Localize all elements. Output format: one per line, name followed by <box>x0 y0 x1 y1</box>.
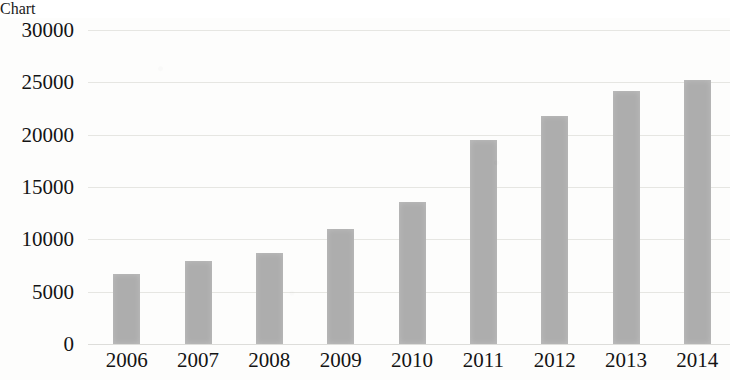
x-tick-label: 2006 <box>106 348 148 374</box>
y-tick-label: 5000 <box>32 281 74 302</box>
bar <box>327 229 354 344</box>
y-tick-label: 15000 <box>22 177 75 198</box>
x-tick-label: 2011 <box>463 348 504 374</box>
gridline-30000 <box>88 30 730 31</box>
y-tick-label: 0 <box>64 334 75 355</box>
y-tick-label: 30000 <box>22 20 75 41</box>
gridline-25000 <box>88 82 730 83</box>
bar-chart: 300002500020000150001000050000 200620072… <box>0 18 730 380</box>
x-tick-label: 2014 <box>676 348 718 374</box>
gridline-0 <box>88 344 730 345</box>
y-tick-label: 20000 <box>22 124 75 145</box>
bar <box>113 274 140 344</box>
x-tick-label: 2007 <box>177 348 219 374</box>
y-axis: 300002500020000150001000050000 <box>0 18 84 380</box>
x-tick-label: 2010 <box>391 348 433 374</box>
y-tick-label: 25000 <box>22 72 75 93</box>
x-tick-label: 2012 <box>534 348 576 374</box>
bar <box>185 261 212 344</box>
bar <box>541 116 568 344</box>
x-axis: 200620072008200920102011201220132014 <box>88 348 730 380</box>
bar <box>256 253 283 344</box>
x-tick-label: 2009 <box>320 348 362 374</box>
bar <box>613 91 640 344</box>
bar <box>684 80 711 344</box>
bar <box>399 202 426 344</box>
plot-area <box>88 30 730 344</box>
x-tick-label: 2013 <box>605 348 647 374</box>
y-tick-label: 10000 <box>22 229 75 250</box>
bar <box>470 140 497 344</box>
x-tick-label: 2008 <box>248 348 290 374</box>
